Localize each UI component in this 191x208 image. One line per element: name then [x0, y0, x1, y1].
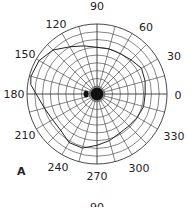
angle-label-0: 0: [175, 90, 182, 101]
next-chart-label-partial: 90: [90, 202, 104, 208]
angle-label-330: 330: [164, 131, 185, 142]
angle-label-270: 270: [87, 171, 108, 182]
angle-label-60: 60: [139, 22, 153, 33]
angle-label-120: 120: [46, 19, 67, 30]
angle-label-30: 30: [167, 51, 181, 62]
panel-label: A: [17, 165, 26, 178]
blind-spot-marker: [84, 91, 89, 98]
fixation-point: [91, 88, 104, 101]
angle-label-240: 240: [48, 162, 69, 173]
angle-label-150: 150: [15, 49, 36, 60]
angle-label-210: 210: [15, 130, 36, 141]
angle-label-90: 90: [90, 1, 104, 12]
angle-label-300: 300: [129, 163, 150, 174]
angle-label-180: 180: [4, 89, 25, 100]
